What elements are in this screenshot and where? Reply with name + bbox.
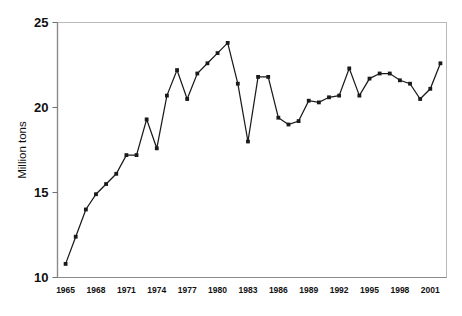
line-chart-plot: 10152025 1965196819711974197719801983198…: [0, 0, 462, 316]
data-point-marker: [297, 119, 301, 123]
data-point-marker: [307, 99, 311, 103]
data-point-marker: [216, 51, 220, 55]
x-tick-label: 1977: [178, 285, 197, 295]
data-point-marker: [236, 82, 240, 86]
data-point-marker: [64, 262, 68, 266]
data-point-marker: [327, 95, 331, 99]
data-point-marker: [337, 94, 341, 98]
data-point-marker: [287, 123, 291, 127]
x-tick-label: 1983: [238, 285, 257, 295]
x-tick-label: 1980: [208, 285, 227, 295]
data-point-marker: [226, 41, 230, 45]
data-point-marker: [388, 72, 392, 76]
x-tick-label: 1974: [147, 285, 166, 295]
chart-background: [0, 0, 462, 316]
data-point-marker: [206, 61, 210, 65]
data-point-marker: [256, 75, 260, 79]
y-tick-label: 25: [34, 15, 48, 30]
data-point-marker: [94, 192, 98, 196]
data-point-marker: [135, 153, 139, 157]
data-point-marker: [145, 118, 149, 122]
x-tick-label: 1989: [299, 285, 318, 295]
data-point-marker: [155, 146, 159, 150]
x-tick-label: 2001: [421, 285, 440, 295]
x-tick-label: 1995: [360, 285, 379, 295]
data-point-marker: [124, 153, 128, 157]
data-point-marker: [378, 72, 382, 76]
y-tick-label: 15: [34, 185, 48, 200]
data-point-marker: [408, 82, 412, 86]
data-point-marker: [175, 68, 179, 72]
data-point-marker: [347, 67, 351, 71]
x-tick-label: 1965: [56, 285, 75, 295]
y-tick-label: 10: [34, 270, 48, 285]
data-point-marker: [317, 101, 321, 105]
data-point-marker: [368, 77, 372, 81]
data-point-marker: [266, 75, 270, 79]
data-point-marker: [246, 140, 250, 144]
data-point-marker: [357, 94, 361, 98]
x-tick-label: 1998: [390, 285, 409, 295]
y-tick-label: 20: [34, 100, 48, 115]
data-point-marker: [418, 97, 422, 101]
x-tick-label: 1992: [330, 285, 349, 295]
data-point-marker: [428, 87, 432, 91]
data-point-marker: [114, 172, 118, 176]
data-point-marker: [165, 94, 169, 98]
data-point-marker: [104, 182, 108, 186]
x-tick-label: 1986: [269, 285, 288, 295]
data-point-marker: [84, 208, 88, 212]
data-point-marker: [195, 72, 199, 76]
x-tick-label: 1968: [87, 285, 106, 295]
data-point-marker: [439, 61, 443, 65]
data-point-marker: [185, 97, 189, 101]
x-tick-label: 1971: [117, 285, 136, 295]
data-point-marker: [398, 78, 402, 82]
data-point-marker: [74, 235, 78, 239]
data-point-marker: [276, 116, 280, 120]
y-axis-title: Million tons: [16, 121, 28, 179]
chart-figure: 10152025 1965196819711974197719801983198…: [0, 0, 462, 316]
